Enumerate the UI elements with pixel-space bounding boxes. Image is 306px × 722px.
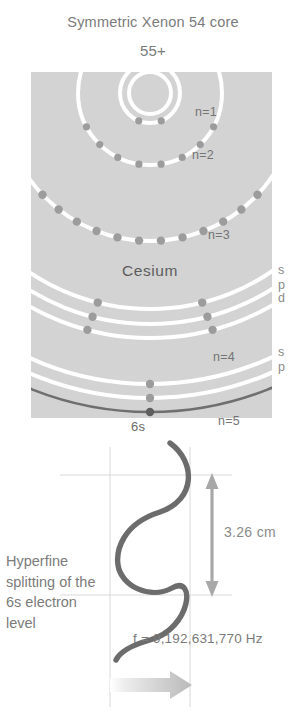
propagation-arrow <box>110 671 192 699</box>
electron-n2 <box>179 154 186 161</box>
electron-n2 <box>83 123 90 130</box>
electron-n4-p <box>88 313 96 321</box>
shell-label-n3: n=3 <box>208 228 230 242</box>
electron-n3 <box>73 217 81 225</box>
electron-n3 <box>135 236 143 244</box>
electron-n1 <box>135 117 142 124</box>
electron-n5-s <box>146 380 154 388</box>
electron-n4-p <box>203 313 211 321</box>
subshell-label-n5-p: p <box>278 360 285 374</box>
electron-n3 <box>54 205 62 213</box>
electron-n2 <box>157 161 164 168</box>
shell-label-n2: n=2 <box>192 148 214 162</box>
electron-n2 <box>210 123 217 130</box>
electron-n2 <box>96 141 103 148</box>
element-name-label: Cesium <box>0 262 300 280</box>
frequency-label: f = 9,192,631,770 Hz <box>133 631 263 646</box>
electron-n4-s <box>94 298 102 306</box>
electron-n3 <box>199 227 207 235</box>
electron-n3 <box>157 236 165 244</box>
electron-n4-s <box>198 298 206 306</box>
subshell-label-n5-s: s <box>278 345 284 359</box>
core-charge-label: 55+ <box>0 42 306 59</box>
dimension-arrow <box>206 473 219 597</box>
electron-n3 <box>92 227 100 235</box>
electron-n4-d <box>83 326 91 334</box>
subshell-label-n4-s: s <box>278 263 284 277</box>
valence-orbital-label: 6s <box>131 419 145 434</box>
electron-n2 <box>135 161 142 168</box>
subshell-label-n4-p: p <box>278 278 285 292</box>
valence-electron-6s <box>146 408 154 416</box>
electron-n3 <box>178 233 186 241</box>
wavelength-dimension-label: 3.26 cm <box>224 524 276 540</box>
shell-label-n5: n=5 <box>218 414 240 428</box>
hyperfine-caption: Hyperfine splitting of the 6s electron l… <box>6 551 110 633</box>
electron-n1 <box>158 117 165 124</box>
electron-n4-d <box>208 326 216 334</box>
hyperfine-wave <box>116 443 188 660</box>
electron-n3 <box>219 217 227 225</box>
electron-n3 <box>253 191 261 199</box>
shell-label-n4: n=4 <box>213 350 235 364</box>
electron-n2 <box>114 154 121 161</box>
electron-n5-p <box>146 394 154 402</box>
figure-title: Symmetric Xenon 54 core <box>0 14 306 30</box>
electron-n3 <box>237 205 245 213</box>
electron-n3 <box>113 233 121 241</box>
shell-label-n1: n=1 <box>195 105 217 119</box>
figure-canvas: Symmetric Xenon 54 core 55+ Cesium n=1 n… <box>0 0 306 722</box>
electron-n3 <box>38 191 46 199</box>
subshell-label-n4-d: d <box>278 291 285 305</box>
